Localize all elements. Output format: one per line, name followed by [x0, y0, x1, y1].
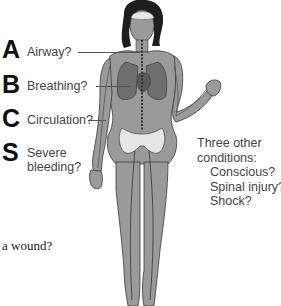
label-bleeding: bleeding?: [27, 160, 81, 174]
leader-line-airway: [78, 52, 140, 53]
other-conditions-heading: Three other conditions:: [197, 136, 262, 165]
heading-line-1: Three other: [197, 136, 262, 151]
label-airway: Airway?: [27, 45, 71, 59]
leader-line-circulation: [88, 120, 106, 121]
condition-spinal-injury: Spinal injury?: [210, 180, 281, 195]
label-severe: Severe: [27, 146, 67, 160]
wound-text-fragment: a wound?: [2, 238, 52, 254]
label-breathing: Breathing?: [27, 79, 87, 93]
other-conditions-list: Conscious? Spinal injury? Shock?: [210, 165, 281, 209]
letter-b: B: [2, 72, 20, 97]
condition-conscious: Conscious?: [210, 165, 281, 180]
letter-s: S: [2, 140, 19, 165]
heading-line-2: conditions:: [197, 151, 262, 166]
condition-shock: Shock?: [210, 194, 281, 209]
letter-c: C: [2, 106, 20, 131]
label-circulation: Circulation?: [27, 113, 93, 127]
leader-line-breathing: [96, 86, 130, 87]
letter-a: A: [2, 37, 20, 62]
